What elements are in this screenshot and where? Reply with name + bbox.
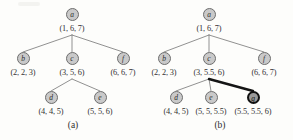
tree-node-interval-a: (1, 6, 7) xyxy=(197,24,222,33)
tree-node-interval-b: (2, 2, 3) xyxy=(11,68,36,77)
tree-node-letter: f xyxy=(263,54,265,63)
figure-tree-pair: a(1, 6, 7)b(2, 2, 3)c(3, 5, 6)f(6, 6, 7)… xyxy=(0,0,293,140)
tree-node-letter: c xyxy=(70,54,73,63)
tree-node-interval-e: (5, 5, 6) xyxy=(88,107,113,116)
tree-node-letter: c xyxy=(207,54,210,63)
tree-node-interval-d: (4, 4, 5) xyxy=(39,107,64,116)
panel-a-caption: (a) xyxy=(0,120,146,130)
tree-node-g: g xyxy=(247,91,260,104)
tree-node-d: d xyxy=(170,91,183,104)
tree-node-c: c xyxy=(203,52,216,65)
tree-node-interval-d: (4, 4, 5) xyxy=(164,107,189,116)
tree-edge-c-e xyxy=(72,79,100,91)
tree-node-letter: f xyxy=(122,54,124,63)
tree-node-b: b xyxy=(158,52,171,65)
tree-node-a: a xyxy=(66,8,79,21)
tree-node-interval-a: (1, 6, 7) xyxy=(60,24,85,33)
tree-node-a: a xyxy=(203,8,216,21)
tree-node-interval-f: (6, 6, 7) xyxy=(111,68,136,77)
tree-node-letter: e xyxy=(98,93,101,102)
tree-node-letter: a xyxy=(207,10,211,19)
tree-node-interval-g: (5.5, 5.5, 6) xyxy=(235,107,272,116)
tree-node-letter: e xyxy=(209,93,212,102)
tree-edge-c-d xyxy=(51,79,72,91)
panel-a: a(1, 6, 7)b(2, 2, 3)c(3, 5, 6)f(6, 6, 7)… xyxy=(0,0,146,140)
tree-node-interval-c: (3, 5, 6) xyxy=(60,68,85,77)
tree-node-b: b xyxy=(17,52,30,65)
tree-node-d: d xyxy=(45,91,58,104)
tree-node-letter: b xyxy=(162,54,166,63)
panel-b: a(1, 6, 7)b(2, 2, 3)c(3, 5.5, 6)f(6, 6, … xyxy=(147,0,293,140)
tree-node-interval-c: (3, 5.5, 6) xyxy=(194,68,225,77)
tree-node-interval-e: (5, 5, 5.5) xyxy=(196,107,227,116)
tree-node-letter: d xyxy=(49,93,53,102)
tree-node-letter: a xyxy=(70,10,74,19)
tree-edge-a-b xyxy=(164,35,209,52)
tree-edge-a-b xyxy=(23,35,72,52)
tree-node-interval-f: (6, 6, 7) xyxy=(252,68,277,77)
tree-node-letter: g xyxy=(251,94,255,103)
tree-edge-c-g xyxy=(209,79,253,91)
tree-edge-a-f xyxy=(72,35,123,52)
tree-node-e: e xyxy=(94,91,107,104)
tree-edge-c-d xyxy=(176,79,209,91)
panel-b-caption: (b) xyxy=(147,120,293,130)
tree-edge-a-f xyxy=(209,35,264,52)
tree-node-f: f xyxy=(258,52,271,65)
tree-node-interval-b: (2, 2, 3) xyxy=(152,68,177,77)
tree-node-letter: b xyxy=(21,54,25,63)
tree-node-letter: d xyxy=(174,93,178,102)
tree-node-e: e xyxy=(205,91,218,104)
tree-node-c: c xyxy=(66,52,79,65)
tree-edge-c-e xyxy=(209,79,211,91)
tree-node-f: f xyxy=(117,52,130,65)
